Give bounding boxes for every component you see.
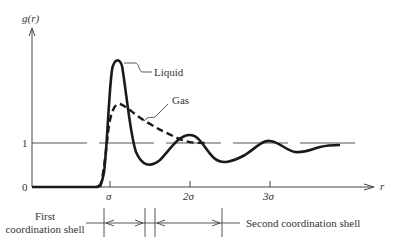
second-shell-label: Second coordination shell	[246, 217, 400, 230]
x-tick-3sigma: 3σ	[262, 190, 275, 202]
gas-curve	[100, 104, 205, 187]
liquid-label: Liquid	[154, 66, 184, 78]
gas-label: Gas	[172, 94, 189, 106]
y-tick-1: 1	[22, 137, 28, 149]
y-tick-0: 0	[22, 181, 28, 193]
gas-leader	[144, 104, 168, 121]
first-shell-line1: First	[4, 210, 86, 223]
liquid-leader	[124, 63, 152, 72]
x-tick-2sigma: 2σ	[183, 190, 195, 202]
first-shell-label: First coordination shell	[4, 210, 86, 236]
y-axis-label: g(r)	[22, 12, 39, 25]
first-shell-line2: coordination shell	[4, 223, 86, 236]
x-tick-sigma: σ	[106, 190, 112, 202]
liquid-curve	[32, 60, 340, 187]
x-axis-label: r	[380, 180, 385, 192]
